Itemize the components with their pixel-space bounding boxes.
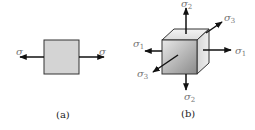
sigma3-upright-arrow-icon [206,22,222,33]
svg-text:σ1: σ1 [133,38,144,51]
caption-b: (b) [181,108,195,119]
svg-text:σ1: σ1 [235,45,246,58]
sigma-label-right: σ [99,46,107,57]
caption-a: (a) [56,109,70,120]
svg-text:σ3: σ3 [137,68,148,81]
cube-front-face [162,40,197,74]
figure-b-triaxial: σ2 σ3 σ1 σ1 σ3 σ2 (b) [133,0,246,119]
figure-a-uniaxial: σ σ (a) [16,40,107,120]
svg-text:σ3: σ3 [224,12,235,25]
stress-diagram: σ σ (a) σ2 σ3 σ1 σ1 σ3 σ2 (b) [0,0,255,130]
sigma-label-left: σ [16,46,24,57]
svg-text:σ: σ [16,46,24,57]
square-element [44,40,79,74]
svg-text:σ: σ [99,46,107,57]
svg-text:σ2: σ2 [184,91,195,104]
